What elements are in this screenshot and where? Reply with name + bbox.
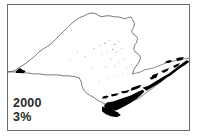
legend-percent: 3% [13,111,42,125]
sao-paulo-state-boundary [8,13,141,74]
legend-year: 2000 [13,97,42,111]
map-frame: 2000 3% [7,4,190,131]
figure-root: 2000 3% [0,0,197,139]
map-legend: 2000 3% [13,97,42,124]
interior-forest-fragments [63,30,132,82]
remaining-forest-patches [16,57,189,117]
